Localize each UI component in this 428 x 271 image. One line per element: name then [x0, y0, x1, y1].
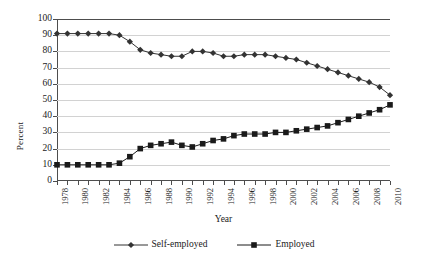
- data-point-marker: [127, 154, 133, 160]
- y-tick-label: 100: [38, 14, 52, 24]
- data-point-marker: [377, 107, 383, 113]
- legend-label: Employed: [275, 240, 314, 250]
- data-point-marker: [189, 144, 195, 150]
- chart-legend: Self-employedEmployed: [0, 240, 428, 250]
- data-point-marker: [158, 141, 164, 147]
- series-self-employed: [54, 30, 393, 98]
- data-point-marker: [366, 110, 372, 116]
- x-tick-label: 1978: [61, 188, 70, 205]
- legend-item-employed[interactable]: Employed: [237, 240, 314, 250]
- line-chart: Percent 0102030405060708090100 197819801…: [0, 0, 428, 271]
- data-point-marker: [241, 52, 247, 58]
- data-point-marker: [273, 130, 279, 136]
- y-tick-label: 90: [43, 30, 53, 40]
- data-point-marker: [137, 146, 143, 152]
- y-tick-label: 0: [47, 176, 52, 186]
- data-point-marker: [356, 76, 362, 82]
- x-tick-mark: [130, 181, 131, 185]
- y-tick-label: 40: [43, 111, 53, 121]
- x-tick-mark: [255, 181, 256, 185]
- data-point-marker: [324, 66, 330, 72]
- y-tick-label: 60: [43, 79, 53, 89]
- data-point-marker: [231, 53, 237, 59]
- x-tick-mark: [276, 181, 277, 185]
- x-tick-mark: [109, 181, 110, 185]
- data-point-marker: [179, 53, 185, 59]
- x-tick-mark: [369, 181, 370, 185]
- x-tick-label: 1982: [102, 188, 111, 205]
- x-tick-mark: [88, 181, 89, 185]
- data-point-marker: [117, 160, 123, 166]
- data-point-marker: [314, 63, 320, 69]
- legend-item-self-employed[interactable]: Self-employed: [114, 240, 208, 250]
- square-marker-icon: [237, 240, 271, 250]
- y-tick-label: 70: [43, 63, 53, 73]
- x-tick-label: 1980: [81, 188, 90, 205]
- x-tick-mark: [171, 181, 172, 185]
- data-point-marker: [168, 53, 174, 59]
- data-point-marker: [116, 32, 122, 38]
- data-point-marker: [356, 113, 362, 119]
- x-tick-mark: [296, 181, 297, 185]
- y-tick-label: 20: [43, 144, 53, 154]
- data-point-marker: [210, 50, 216, 56]
- x-tick-mark: [338, 181, 339, 185]
- x-tick-mark: [182, 181, 183, 185]
- x-tick-label: 1994: [227, 188, 236, 205]
- data-point-marker: [294, 128, 300, 134]
- data-point-marker: [169, 139, 175, 145]
- x-tick-mark: [78, 181, 79, 185]
- data-point-marker: [262, 131, 268, 137]
- data-point-marker: [366, 79, 372, 85]
- x-tick-mark: [151, 181, 152, 185]
- x-tick-label: 1984: [123, 188, 132, 205]
- data-point-marker: [158, 52, 164, 58]
- data-point-marker: [387, 102, 393, 108]
- data-point-marker: [106, 30, 112, 36]
- data-point-marker: [148, 50, 154, 56]
- x-tick-mark: [192, 181, 193, 185]
- data-point-marker: [252, 131, 258, 137]
- series-line: [57, 105, 390, 165]
- data-point-marker: [262, 52, 268, 58]
- y-tick-label: 80: [43, 47, 53, 57]
- x-axis-title: Year: [57, 214, 390, 224]
- data-point-marker: [272, 53, 278, 59]
- x-tick-mark: [286, 181, 287, 185]
- data-point-marker: [96, 30, 102, 36]
- x-tick-label: 1992: [206, 188, 215, 205]
- x-tick-mark: [67, 181, 68, 185]
- x-tick-mark: [359, 181, 360, 185]
- data-point-marker: [335, 120, 341, 126]
- data-point-marker: [189, 48, 195, 54]
- data-point-marker: [210, 138, 216, 144]
- diamond-marker-icon: [114, 240, 148, 250]
- data-point-marker: [345, 73, 351, 79]
- data-point-marker: [231, 133, 237, 139]
- data-point-marker: [96, 162, 102, 168]
- x-tick-label: 2008: [373, 188, 382, 205]
- x-tick-mark: [119, 181, 120, 185]
- data-point-marker: [65, 162, 71, 168]
- data-point-marker: [221, 136, 227, 142]
- data-point-marker: [106, 162, 112, 168]
- data-point-marker: [75, 162, 81, 168]
- x-tick-mark: [161, 181, 162, 185]
- data-point-marker: [304, 60, 310, 66]
- x-tick-mark: [203, 181, 204, 185]
- y-tick-label: 30: [43, 128, 53, 138]
- data-point-marker: [220, 53, 226, 59]
- data-point-marker: [346, 117, 352, 123]
- data-point-marker: [148, 143, 154, 149]
- data-point-marker: [200, 141, 206, 147]
- data-point-marker: [293, 56, 299, 62]
- y-tick-label: 10: [43, 160, 53, 170]
- data-point-marker: [283, 55, 289, 61]
- x-tick-mark: [317, 181, 318, 185]
- data-point-marker: [242, 131, 248, 137]
- x-tick-label: 2002: [310, 188, 319, 205]
- x-tick-mark: [328, 181, 329, 185]
- x-tick-mark: [140, 181, 141, 185]
- x-tick-label: 1996: [248, 188, 257, 205]
- x-tick-mark: [265, 181, 266, 185]
